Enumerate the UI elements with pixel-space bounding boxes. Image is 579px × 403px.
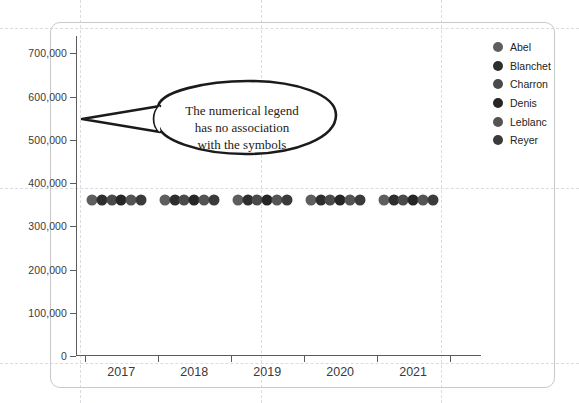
chart-legend: AbelBlanchetCharronDenisLeblancReyer bbox=[493, 38, 573, 150]
x-tick bbox=[158, 356, 159, 362]
x-tick bbox=[304, 356, 305, 362]
y-tick bbox=[70, 313, 76, 314]
x-tick bbox=[231, 356, 232, 362]
x-tick-label: 2018 bbox=[180, 365, 208, 379]
chart-canvas: 0100,000200,000300,000400,000500,000600,… bbox=[0, 0, 579, 403]
x-tick-label: 2019 bbox=[253, 365, 281, 379]
x-tick bbox=[85, 356, 86, 362]
x-tick-label: 2017 bbox=[107, 365, 135, 379]
legend-marker-icon bbox=[493, 79, 503, 89]
y-tick-label: 400,000 bbox=[28, 177, 67, 189]
y-tick-label: 600,000 bbox=[28, 91, 67, 103]
legend-item-label: Charron bbox=[510, 78, 548, 90]
y-tick bbox=[70, 270, 76, 271]
y-tick-label: 500,000 bbox=[28, 134, 67, 146]
legend-marker-icon bbox=[493, 61, 503, 71]
x-tick-label: 2020 bbox=[326, 365, 354, 379]
data-point-marker bbox=[208, 195, 219, 206]
y-tick bbox=[70, 356, 76, 357]
legend-marker-icon bbox=[493, 42, 503, 52]
callout-line-1: The numerical legend bbox=[166, 102, 318, 119]
y-tick-label: 300,000 bbox=[28, 220, 67, 232]
legend-marker-icon bbox=[493, 117, 503, 127]
y-tick bbox=[70, 97, 76, 98]
callout-text: The numerical legend has no association … bbox=[166, 102, 318, 153]
y-tick-label: 200,000 bbox=[28, 264, 67, 276]
x-tick-label: 2021 bbox=[399, 365, 427, 379]
callout-line-2: has no association bbox=[166, 119, 318, 136]
data-point-marker bbox=[354, 195, 365, 206]
y-tick bbox=[70, 226, 76, 227]
legend-item[interactable]: Abel bbox=[493, 38, 573, 57]
legend-marker-icon bbox=[493, 135, 503, 145]
data-point-marker bbox=[135, 195, 146, 206]
legend-item[interactable]: Denis bbox=[493, 94, 573, 113]
x-axis-line bbox=[76, 355, 481, 356]
legend-item-label: Leblanc bbox=[510, 116, 547, 128]
x-tick bbox=[377, 356, 378, 362]
data-point-marker bbox=[281, 195, 292, 206]
y-tick bbox=[70, 183, 76, 184]
y-tick bbox=[70, 140, 76, 141]
callout-annotation: The numerical legend has no association … bbox=[80, 78, 342, 190]
legend-item-label: Reyer bbox=[510, 134, 538, 146]
legend-marker-icon bbox=[493, 98, 503, 108]
legend-item[interactable]: Leblanc bbox=[493, 112, 573, 131]
y-tick-label: 100,000 bbox=[28, 307, 67, 319]
legend-item[interactable]: Blanchet bbox=[493, 57, 573, 76]
legend-item-label: Blanchet bbox=[510, 60, 551, 72]
y-axis-line bbox=[76, 36, 77, 356]
legend-item[interactable]: Reyer bbox=[493, 131, 573, 150]
data-point-marker bbox=[427, 195, 438, 206]
legend-item-label: Abel bbox=[510, 41, 531, 53]
y-tick bbox=[70, 53, 76, 54]
x-tick bbox=[450, 356, 451, 362]
y-tick-label: 0 bbox=[61, 350, 67, 362]
y-tick-label: 700,000 bbox=[28, 47, 67, 59]
legend-item-label: Denis bbox=[510, 97, 537, 109]
callout-line-3: with the symbols bbox=[166, 136, 318, 153]
legend-item[interactable]: Charron bbox=[493, 75, 573, 94]
